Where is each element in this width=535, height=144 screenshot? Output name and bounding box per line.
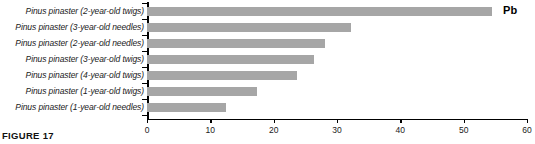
- y-axis-tick: [142, 19, 147, 20]
- x-axis-tick: [464, 119, 465, 123]
- figure-caption-text: FIGURE 17: [2, 133, 54, 141]
- bar-track: [147, 35, 535, 51]
- x-axis-tick: [527, 119, 528, 123]
- bar: [147, 71, 297, 80]
- bar-row: Pinus pinaster (2-year-old needles): [0, 35, 535, 51]
- bar-chart-plot-area: Pinus pinaster (2-year-old twigs)Pinus p…: [0, 0, 535, 122]
- bar-row: Pinus pinaster (3-year-old needles): [0, 19, 535, 35]
- x-axis-tick: [210, 119, 211, 123]
- bar-row: Pinus pinaster (1-year-old needles): [0, 99, 535, 115]
- figure-root: Pinus pinaster (2-year-old twigs)Pinus p…: [0, 0, 535, 144]
- bar-track: [147, 3, 535, 19]
- x-axis-tick: [274, 119, 275, 123]
- bar-row: Pinus pinaster (4-year-old twigs): [0, 67, 535, 83]
- bar: [147, 23, 351, 32]
- category-label: Pinus pinaster (3-year-old twigs): [0, 54, 147, 64]
- category-label: Pinus pinaster (1-year-old needles): [0, 102, 147, 112]
- y-axis-tick: [142, 83, 147, 84]
- bar: [147, 7, 492, 16]
- bar: [147, 55, 314, 64]
- category-label: Pinus pinaster (2-year-old needles): [0, 38, 147, 48]
- figure-caption: FIGURE 17: [0, 133, 535, 144]
- y-axis-tick: [142, 115, 147, 116]
- bar-track: [147, 67, 535, 83]
- bar: [147, 103, 226, 112]
- category-label: Pinus pinaster (2-year-old twigs): [0, 6, 147, 16]
- bar: [147, 87, 257, 96]
- category-label: Pinus pinaster (1-year-old twigs): [0, 86, 147, 96]
- x-axis-tick: [337, 119, 338, 123]
- y-axis-tick: [142, 99, 147, 100]
- y-axis-tick: [142, 51, 147, 52]
- y-axis-tick: [142, 3, 147, 4]
- bar-row: Pinus pinaster (1-year-old twigs): [0, 83, 535, 99]
- y-axis-tick: [142, 35, 147, 36]
- y-axis-tick: [142, 67, 147, 68]
- bar-track: [147, 51, 535, 67]
- category-label: Pinus pinaster (4-year-old twigs): [0, 70, 147, 80]
- bar-track: [147, 83, 535, 99]
- category-label: Pinus pinaster (3-year-old needles): [0, 22, 147, 32]
- bar-row: Pinus pinaster (3-year-old twigs): [0, 51, 535, 67]
- series-annotation-label: Pb: [503, 4, 517, 16]
- bar: [147, 39, 325, 48]
- x-axis-tick: [400, 119, 401, 123]
- bar-track: [147, 99, 535, 115]
- bar-row: Pinus pinaster (2-year-old twigs): [0, 3, 535, 19]
- bar-track: [147, 19, 535, 35]
- x-axis-tick: [147, 119, 148, 123]
